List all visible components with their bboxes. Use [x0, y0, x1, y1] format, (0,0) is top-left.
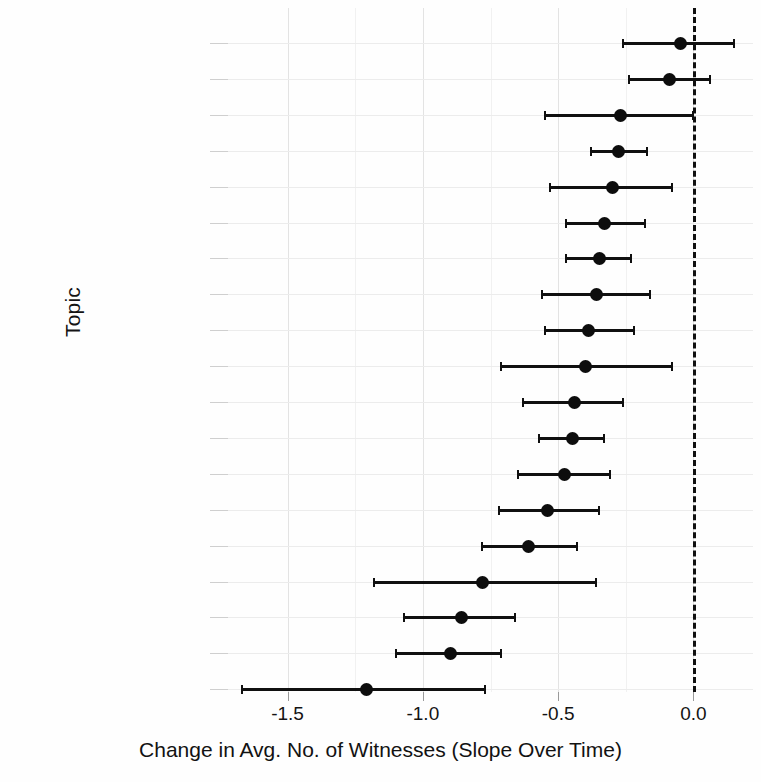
y-gridline — [228, 402, 753, 403]
ci-high-cap — [500, 649, 502, 658]
ci-high-cap — [598, 506, 600, 515]
y-gridline — [228, 187, 753, 188]
estimate-point[interactable] — [612, 145, 625, 158]
estimate-point[interactable] — [598, 217, 611, 230]
y-axis-tick — [210, 402, 228, 403]
ci-high-cap — [603, 434, 605, 443]
y-axis-tick — [210, 689, 228, 690]
y-gridline — [228, 258, 753, 259]
y-gridline — [228, 438, 753, 439]
ci-low-cap — [565, 219, 567, 228]
x-gridline — [558, 8, 559, 692]
y-gridline — [228, 151, 753, 152]
ci-low-cap — [628, 75, 630, 84]
ci-low-cap — [544, 326, 546, 335]
ci-low-cap — [549, 183, 551, 192]
y-gridline — [228, 510, 753, 511]
x-axis-tick-label: -1.0 — [406, 703, 439, 725]
y-axis-tick — [210, 510, 228, 511]
estimate-point[interactable] — [566, 432, 579, 445]
estimate-point[interactable] — [558, 468, 571, 481]
estimate-point[interactable] — [663, 73, 676, 86]
ci-low-cap — [403, 613, 405, 622]
ci-high-cap — [622, 398, 624, 407]
y-axis-tick — [210, 582, 228, 583]
y-axis-tick — [210, 330, 228, 331]
estimate-point[interactable] — [606, 181, 619, 194]
ci-high-cap — [630, 254, 632, 263]
y-gridline — [228, 474, 753, 475]
estimate-point[interactable] — [476, 576, 489, 589]
x-axis-tick — [288, 692, 289, 701]
x-axis-title: Change in Avg. No. of Witnesses (Slope O… — [0, 738, 761, 762]
y-axis-tick — [210, 151, 228, 152]
y-gridline — [228, 223, 753, 224]
x-axis-tick — [693, 692, 694, 701]
ci-low-cap — [622, 39, 624, 48]
y-axis-tick — [210, 438, 228, 439]
ci-low-cap — [565, 254, 567, 263]
y-axis-tick — [210, 187, 228, 188]
x-axis-tick-label: 0.0 — [680, 703, 706, 725]
y-axis-tick — [210, 653, 228, 654]
y-axis-tick — [210, 546, 228, 547]
y-axis-tick — [210, 43, 228, 44]
x-gridline — [423, 8, 424, 692]
ci-low-cap — [544, 111, 546, 120]
x-minor-gridline — [355, 8, 356, 692]
ci-high-cap — [595, 578, 597, 587]
ci-high-cap — [649, 290, 651, 299]
y-axis-tick — [210, 366, 228, 367]
y-axis-title: Topic — [61, 232, 85, 392]
estimate-point[interactable] — [444, 647, 457, 660]
ci-high-cap — [646, 147, 648, 156]
x-minor-gridline — [491, 8, 492, 692]
estimate-point[interactable] — [590, 288, 603, 301]
ci-low-cap — [498, 506, 500, 515]
y-axis-tick — [210, 223, 228, 224]
ci-high-cap — [576, 542, 578, 551]
estimate-point[interactable] — [522, 540, 535, 553]
ci-low-cap — [395, 649, 397, 658]
estimate-point[interactable] — [674, 37, 687, 50]
x-gridline — [288, 8, 289, 692]
x-axis-tick-label: -0.5 — [542, 703, 575, 725]
x-axis-tick-labels: -1.5-1.0-0.50.0 — [228, 703, 753, 729]
y-axis-tick — [210, 617, 228, 618]
ci-high-cap — [671, 362, 673, 371]
ci-low-cap — [500, 362, 502, 371]
y-axis-tick — [210, 258, 228, 259]
x-axis-tick-label: -1.5 — [271, 703, 304, 725]
estimate-point[interactable] — [541, 504, 554, 517]
ci-high-cap — [671, 183, 673, 192]
x-axis-tick — [423, 692, 424, 701]
ci-low-cap — [538, 434, 540, 443]
estimate-point[interactable] — [455, 611, 468, 624]
y-gridline — [228, 330, 753, 331]
estimate-point[interactable] — [593, 252, 606, 265]
ci-high-cap — [709, 75, 711, 84]
ci-low-cap — [517, 470, 519, 479]
ci-low-cap — [522, 398, 524, 407]
x-minor-gridline — [626, 8, 627, 692]
ci-low-cap — [541, 290, 543, 299]
ci-high-cap — [733, 39, 735, 48]
y-axis-tick — [210, 294, 228, 295]
ci-high-cap — [609, 470, 611, 479]
ci-high-cap — [644, 219, 646, 228]
x-axis-tick — [558, 692, 559, 701]
plot-panel: Science/TechnologyInternational AffairsE… — [228, 8, 753, 692]
forest-plot-figure: Topic Science/TechnologyInternational Af… — [0, 0, 761, 782]
y-axis-tick — [210, 474, 228, 475]
y-gridline — [228, 366, 753, 367]
zero-reference-line — [693, 8, 696, 692]
y-axis-tick — [210, 115, 228, 116]
y-gridline — [228, 294, 753, 295]
estimate-point[interactable] — [579, 360, 592, 373]
ci-high-cap — [633, 326, 635, 335]
estimate-point[interactable] — [568, 396, 581, 409]
ci-low-cap — [590, 147, 592, 156]
estimate-point[interactable] — [582, 324, 595, 337]
ci-low-cap — [481, 542, 483, 551]
ci-high-cap — [514, 613, 516, 622]
